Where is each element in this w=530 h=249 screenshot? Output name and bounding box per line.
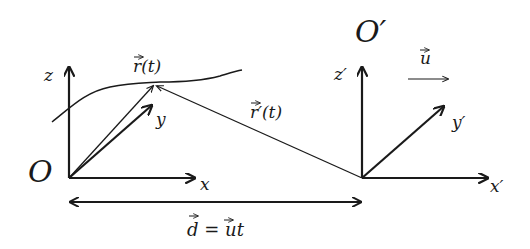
- u-label-text: u: [420, 48, 431, 68]
- origin-o-label: O: [28, 154, 53, 189]
- d-equation-text: d = ut: [187, 219, 245, 240]
- r-prime-vector-label: r′(t): [250, 102, 282, 122]
- r-label-text: r(t): [133, 56, 161, 76]
- y-axis-label: y: [155, 109, 166, 129]
- r-prime-label-text: r′(t): [250, 102, 282, 122]
- x-axis-label: x: [200, 174, 210, 194]
- y-prime-axis: [362, 107, 443, 178]
- y-axis: [69, 106, 151, 178]
- u-vector-label: u: [420, 48, 431, 68]
- d-equation-label: d = ut: [187, 216, 245, 240]
- position-vector-r-prime: [157, 86, 362, 178]
- z-axis-label: z: [43, 65, 54, 85]
- trajectory-curve: [52, 70, 242, 122]
- frame-o-prime-axes: [362, 68, 487, 178]
- y-prime-axis-label: y′: [451, 112, 466, 132]
- origin-o-prime-label: O′: [355, 14, 387, 49]
- x-prime-axis-label: x′: [490, 176, 504, 196]
- frames-diagram: O z x y r(t) r′(t) O′ z′ x′ y′ u d = ut: [0, 0, 530, 249]
- z-prime-axis-label: z′: [333, 64, 347, 84]
- r-vector-label: r(t): [133, 56, 161, 76]
